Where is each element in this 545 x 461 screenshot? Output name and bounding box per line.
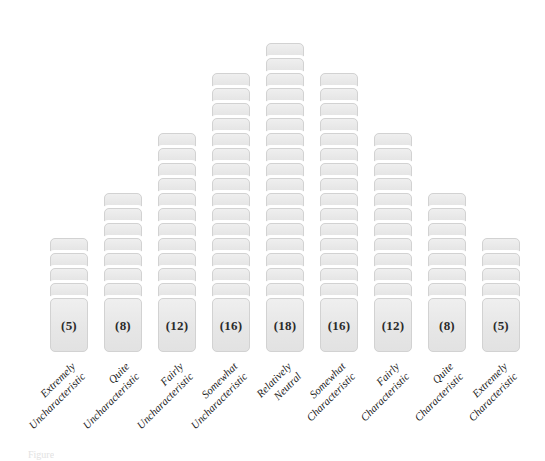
pile-count-label: (16) (328, 319, 350, 332)
pile-bottom-card[interactable]: (16) (317, 295, 361, 355)
card-pile-0[interactable]: (5) (47, 235, 91, 355)
pile-bottom-card[interactable]: (12) (371, 295, 415, 355)
card-pile-2[interactable]: (12) (155, 130, 199, 355)
card-face: (16) (212, 298, 251, 353)
card-face: (5) (482, 298, 521, 353)
card-pile-3[interactable]: (16) (209, 70, 253, 355)
category-label-0: ExtremelyUncharacteristic (0, 360, 88, 461)
card-face: (12) (374, 298, 413, 353)
card-pile-8[interactable]: (5) (479, 235, 523, 355)
category-label-line2: Characteristic (405, 370, 521, 461)
card-face: (5) (50, 298, 89, 353)
pile-count-label: (12) (382, 319, 404, 332)
pile-bottom-card[interactable]: (12) (155, 295, 199, 355)
pile-bottom-card[interactable]: (16) (209, 295, 253, 355)
pile-count-label: (12) (166, 319, 188, 332)
pile-count-label: (5) (493, 319, 509, 332)
category-label-line2: Characteristic (243, 370, 359, 461)
card-pile-6[interactable]: (12) (371, 130, 415, 355)
card-pile-1[interactable]: (8) (101, 190, 145, 355)
pile-count-label: (8) (115, 319, 131, 332)
category-label-6: FairlyCharacteristic (287, 360, 413, 461)
card-face: (8) (428, 298, 467, 353)
figure-caption-partial: Figure (28, 449, 54, 461)
pile-count-label: (8) (439, 319, 455, 332)
category-label-line1: Fairly (71, 360, 187, 461)
category-label-1: QuiteUncharacteristic (17, 360, 143, 461)
card-face: (8) (104, 298, 143, 353)
category-label-line2: Neutral (189, 370, 305, 461)
category-label-line1: Fairly (287, 360, 403, 461)
category-label-line1: Extremely (0, 360, 79, 461)
card-face: (18) (266, 298, 305, 353)
pile-bottom-card[interactable]: (8) (101, 295, 145, 355)
category-label-line2: Uncharacteristic (81, 370, 197, 461)
pile-bottom-card[interactable]: (5) (47, 295, 91, 355)
card-face: (16) (320, 298, 359, 353)
pile-bottom-card[interactable]: (8) (425, 295, 469, 355)
category-label-line2: Uncharacteristic (135, 370, 251, 461)
pile-bottom-card[interactable]: (5) (479, 295, 523, 355)
category-label-3: SomewhatUncharacteristic (125, 360, 251, 461)
q-sort-distribution-figure: Figure (5)ExtremelyUncharacteristic(8)Qu… (0, 0, 545, 461)
category-label-line2: Uncharacteristic (27, 370, 143, 461)
card-pile-4[interactable]: (18) (263, 40, 307, 355)
pile-count-label: (18) (274, 319, 296, 332)
pile-bottom-card[interactable]: (18) (263, 295, 307, 355)
category-label-5: SomewhatCharacteristic (233, 360, 359, 461)
pile-count-label: (5) (61, 319, 77, 332)
category-label-2: FairlyUncharacteristic (71, 360, 197, 461)
category-label-line1: Somewhat (125, 360, 241, 461)
category-label-4: RelativelyNeutral (179, 360, 305, 461)
category-label-line1: Somewhat (233, 360, 349, 461)
category-label-line1: Extremely (395, 360, 511, 461)
category-label-line1: Quite (17, 360, 133, 461)
pile-count-label: (16) (220, 319, 242, 332)
card-pile-5[interactable]: (16) (317, 70, 361, 355)
category-label-line1: Quite (341, 360, 457, 461)
category-label-8: ExtremelyCharacteristic (395, 360, 521, 461)
category-label-line2: Characteristic (297, 370, 413, 461)
card-face: (12) (158, 298, 197, 353)
category-label-line2: Characteristic (351, 370, 467, 461)
category-label-line1: Relatively (179, 360, 295, 461)
card-pile-7[interactable]: (8) (425, 190, 469, 355)
category-label-7: QuiteCharacteristic (341, 360, 467, 461)
category-label-line2: Uncharacteristic (0, 370, 88, 461)
